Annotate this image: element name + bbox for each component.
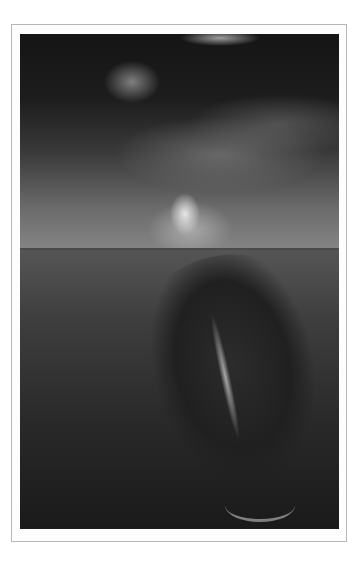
photograph: [20, 34, 339, 529]
whale-fin: [225, 489, 295, 522]
hand: [160, 184, 210, 244]
